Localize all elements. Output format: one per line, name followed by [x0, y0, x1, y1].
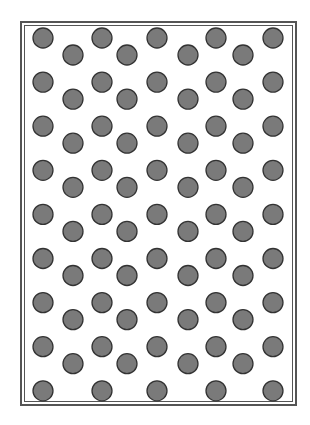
- dot: [92, 249, 112, 269]
- dot: [147, 293, 167, 313]
- dot-pattern: [0, 0, 310, 425]
- dot: [33, 160, 53, 180]
- dot-offset: [117, 89, 137, 109]
- dot: [147, 160, 167, 180]
- dot-offset: [117, 266, 137, 286]
- dot: [263, 204, 283, 224]
- dot-offset: [63, 354, 83, 374]
- dot: [92, 116, 112, 136]
- dot: [33, 204, 53, 224]
- dot: [263, 160, 283, 180]
- dot-offset: [233, 89, 253, 109]
- dot: [206, 249, 226, 269]
- dot-offset: [117, 45, 137, 65]
- dot: [206, 381, 226, 401]
- dot: [33, 249, 53, 269]
- dot: [92, 337, 112, 357]
- dot: [147, 249, 167, 269]
- dot-offset: [178, 133, 198, 153]
- dot-offset: [233, 266, 253, 286]
- dot: [206, 72, 226, 92]
- dot: [147, 28, 167, 48]
- dot: [92, 381, 112, 401]
- dot: [206, 337, 226, 357]
- dot: [263, 293, 283, 313]
- dot: [263, 116, 283, 136]
- dot: [147, 381, 167, 401]
- dot: [92, 72, 112, 92]
- dot: [147, 72, 167, 92]
- dot-offset: [233, 133, 253, 153]
- dot-offset: [117, 354, 137, 374]
- dot: [147, 204, 167, 224]
- dot-offset: [63, 310, 83, 330]
- dot-offset: [233, 310, 253, 330]
- dot: [33, 381, 53, 401]
- dot-offset: [63, 221, 83, 241]
- dot-offset: [178, 221, 198, 241]
- dot: [263, 381, 283, 401]
- dot: [206, 116, 226, 136]
- dot-offset: [178, 310, 198, 330]
- dot-offset: [117, 177, 137, 197]
- dot-offset: [178, 89, 198, 109]
- dot: [33, 116, 53, 136]
- dot-offset: [233, 221, 253, 241]
- dot: [147, 116, 167, 136]
- dot: [206, 204, 226, 224]
- dot-offset: [178, 266, 198, 286]
- dot-offset: [117, 310, 137, 330]
- dot-offset: [117, 133, 137, 153]
- dot: [263, 28, 283, 48]
- dot: [92, 293, 112, 313]
- dot-offset: [63, 266, 83, 286]
- dot: [33, 28, 53, 48]
- dot: [33, 293, 53, 313]
- dot-offset: [63, 89, 83, 109]
- dot: [263, 249, 283, 269]
- dot: [206, 160, 226, 180]
- dot: [206, 28, 226, 48]
- dot-offset: [63, 45, 83, 65]
- dot-offset: [233, 354, 253, 374]
- dot-offset: [63, 133, 83, 153]
- dot: [92, 28, 112, 48]
- dot: [206, 293, 226, 313]
- dot: [263, 337, 283, 357]
- dot: [263, 72, 283, 92]
- dot-offset: [117, 221, 137, 241]
- dot: [33, 337, 53, 357]
- dot-offset: [178, 45, 198, 65]
- dot-offset: [178, 354, 198, 374]
- dot: [92, 204, 112, 224]
- dot: [92, 160, 112, 180]
- dot-offset: [178, 177, 198, 197]
- dot-offset: [233, 177, 253, 197]
- dot: [33, 72, 53, 92]
- dot-offset: [233, 45, 253, 65]
- dot-offset: [63, 177, 83, 197]
- dot: [147, 337, 167, 357]
